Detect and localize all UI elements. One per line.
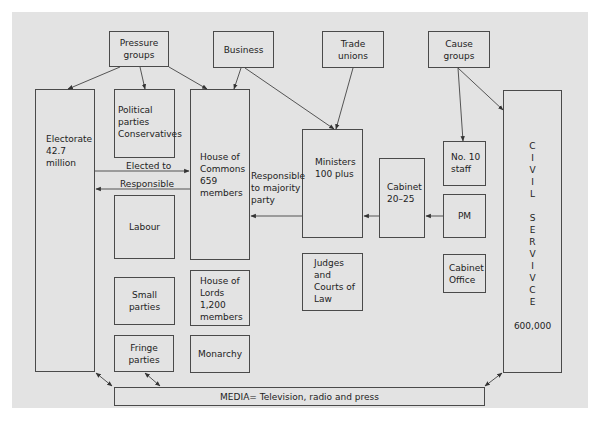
service-letter: S bbox=[530, 212, 536, 224]
trade-unions-box: Trade unions bbox=[322, 31, 384, 68]
diagram-canvas bbox=[12, 12, 588, 408]
pm-label: PM bbox=[458, 210, 471, 222]
media-label: MEDIA= Television, radio and press bbox=[220, 391, 379, 403]
pressure-groups-box: Pressure groups bbox=[109, 31, 169, 67]
rtm-line2: to majority bbox=[251, 182, 305, 194]
small-parties-box: Small parties bbox=[114, 277, 175, 325]
civil-letter: L bbox=[530, 188, 535, 200]
political-parties-line3: Conservatives bbox=[118, 128, 182, 140]
business-box: Business bbox=[213, 31, 274, 68]
judges-box: Judges and Courts of Law bbox=[302, 253, 363, 311]
cabinet-line1: Cabinet bbox=[387, 181, 422, 193]
media-box: MEDIA= Television, radio and press bbox=[114, 387, 485, 406]
elected-to-label: Elected to bbox=[126, 160, 171, 172]
service-letter: I bbox=[531, 260, 534, 272]
pm-box: PM bbox=[443, 194, 486, 238]
electorate-label: Electorate bbox=[46, 133, 92, 145]
rtm-line3: party bbox=[251, 194, 305, 206]
judges-line1: Judges bbox=[314, 257, 355, 269]
rtm-line1: Responsible bbox=[251, 170, 305, 182]
cause-groups-box: Cause groups bbox=[428, 31, 490, 68]
political-parties-line2: parties bbox=[118, 116, 182, 128]
small-parties-label: Small parties bbox=[127, 289, 163, 313]
civil-letter: I bbox=[531, 152, 534, 164]
lords-line3: 1,200 bbox=[200, 299, 243, 311]
lords-line2: Lords bbox=[200, 287, 243, 299]
commons-line4: members bbox=[200, 187, 245, 199]
electorate-value: 42.7 bbox=[46, 145, 92, 157]
labour-label: Labour bbox=[129, 221, 160, 233]
ministers-box: Ministers 100 plus bbox=[302, 129, 363, 238]
cabinet-line2: 20–25 bbox=[387, 193, 422, 205]
business-label: Business bbox=[224, 44, 264, 56]
service-letter: V bbox=[529, 248, 535, 260]
cabinet-box: Cabinet 20–25 bbox=[379, 158, 425, 238]
service-letter: E bbox=[530, 224, 536, 236]
no10-staff-box: No. 10 staff bbox=[443, 141, 486, 186]
fringe-parties-label: Fringe parties bbox=[126, 342, 162, 366]
civil-letter: C bbox=[529, 140, 535, 152]
judges-line2: and bbox=[314, 269, 355, 281]
judges-line4: Law bbox=[314, 293, 355, 305]
judges-line3: Courts of bbox=[314, 281, 355, 293]
house-of-lords-box: House of Lords 1,200 members bbox=[190, 270, 250, 326]
electorate-box: Electorate 42.7 million bbox=[35, 89, 95, 372]
electorate-unit: million bbox=[46, 157, 92, 169]
house-of-commons-box: House of Commons 659 members bbox=[190, 89, 250, 260]
pressure-groups-label: Pressure groups bbox=[119, 37, 159, 61]
civil-service-box: C I V I L S E R V I V C E 600,000 bbox=[503, 90, 562, 373]
lords-line4: members bbox=[200, 311, 243, 323]
civil-service-value: 600,000 bbox=[514, 320, 551, 332]
cabinet-office-line1: Cabinet bbox=[449, 262, 484, 274]
responsible-label: Responsible bbox=[120, 178, 174, 190]
responsible-to-majority-label: Responsible to majority party bbox=[251, 170, 305, 206]
civil-letter: I bbox=[531, 176, 534, 188]
no10-line2: staff bbox=[451, 163, 480, 175]
lords-line1: House of bbox=[200, 275, 243, 287]
cause-groups-label: Cause groups bbox=[442, 38, 476, 62]
labour-box: Labour bbox=[114, 195, 175, 259]
cabinet-office-line2: Office bbox=[449, 274, 484, 286]
political-parties-line1: Political bbox=[118, 104, 182, 116]
political-parties-box: Political parties Conservatives bbox=[114, 89, 175, 158]
commons-line1: House of bbox=[200, 151, 245, 163]
commons-line3: 659 bbox=[200, 175, 245, 187]
no10-line1: No. 10 bbox=[451, 151, 480, 163]
monarchy-label: Monarchy bbox=[198, 348, 242, 360]
trade-unions-label: Trade unions bbox=[336, 38, 370, 62]
monarchy-box: Monarchy bbox=[190, 335, 250, 373]
service-letter: C bbox=[529, 284, 535, 296]
commons-line2: Commons bbox=[200, 163, 245, 175]
service-letter: V bbox=[529, 272, 535, 284]
civil-letter: V bbox=[529, 164, 535, 176]
cabinet-office-box: Cabinet Office bbox=[443, 254, 486, 293]
service-letter: E bbox=[530, 296, 536, 308]
service-letter: R bbox=[529, 236, 535, 248]
fringe-parties-box: Fringe parties bbox=[114, 335, 174, 372]
ministers-line2: 100 plus bbox=[315, 168, 356, 180]
ministers-line1: Ministers bbox=[315, 156, 356, 168]
